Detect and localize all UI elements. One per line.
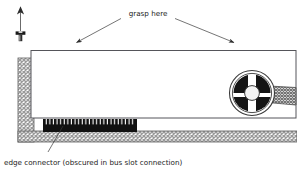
technical-diagram: grasp here	[0, 0, 297, 170]
leader-arrow-left	[77, 19, 122, 43]
edge-connector	[43, 119, 137, 132]
grasp-here-label: grasp here	[129, 9, 168, 18]
edge-connector-caption: edge connector (obscured in bus slot con…	[4, 158, 182, 167]
up-arrow-icon	[17, 6, 24, 31]
chassis-base	[18, 131, 297, 142]
fan-wheel	[230, 71, 275, 116]
leader-arrow-right	[175, 19, 234, 43]
diagram-canvas: grasp here	[0, 0, 297, 170]
screw-head-icon	[16, 31, 26, 41]
